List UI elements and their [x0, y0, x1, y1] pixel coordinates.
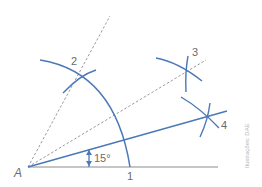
ray-15	[28, 111, 227, 167]
label-1: 1	[127, 170, 133, 182]
label-4: 4	[221, 119, 227, 131]
arc-cross-2	[63, 70, 96, 93]
arc-3a	[156, 58, 202, 81]
angle-label: 15°	[94, 152, 111, 164]
construction-diagram: A 1 2 3 4 15° Ilustrações: DAE	[0, 0, 262, 187]
arc-4a	[181, 97, 219, 128]
label-2: 2	[71, 55, 77, 67]
dashed-ray-60	[28, 16, 110, 167]
dashed-ray-30	[28, 60, 206, 167]
label-3: 3	[192, 46, 198, 58]
arc-4b	[200, 103, 210, 137]
label-A: A	[13, 166, 22, 180]
image-credit: Ilustrações: DAE	[244, 123, 250, 168]
arrow-down-icon	[86, 161, 92, 166]
arc-3b	[186, 56, 188, 92]
